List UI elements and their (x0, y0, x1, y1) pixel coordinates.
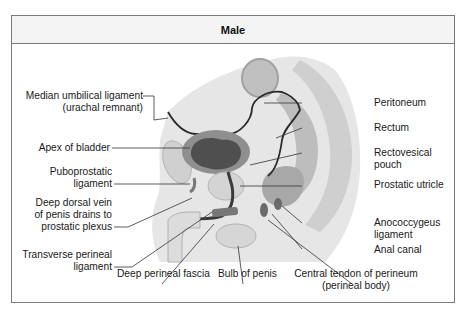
label-line: Apex of bladder (20, 142, 110, 154)
label-anococcygeus-ligament: Anococcygeus ligament (374, 217, 440, 241)
label-line: Transverse perineal (14, 249, 112, 261)
label-line: (perineal body) (286, 280, 426, 292)
label-median-umbilical-ligament: Median umbilical ligament (urachal remna… (20, 90, 143, 114)
label-central-tendon-of-perineum: Central tendon of perineum (perineal bod… (286, 268, 426, 292)
label-line: (urachal remnant) (20, 102, 143, 114)
prostate (208, 172, 244, 200)
label-line: Deep dorsal vein (14, 197, 112, 209)
label-deep-perineal-fascia: Deep perineal fascia (117, 268, 210, 280)
label-rectovesical-pouch: Rectovesical pouch (374, 147, 432, 171)
label-anal-canal: Anal canal (374, 244, 422, 256)
bulb-of-penis (216, 224, 256, 248)
anal-sphincter-2 (274, 198, 282, 210)
label-line: Puboprostatic (20, 166, 112, 178)
label-line: Rectovesical (374, 147, 432, 159)
label-deep-dorsal-vein: Deep dorsal vein of penis drains to pros… (14, 197, 112, 233)
label-prostatic-utricle: Prostatic utricle (374, 179, 444, 191)
label-peritoneum: Peritoneum (374, 97, 426, 109)
label-line: Anococcygeus (374, 217, 440, 229)
label-line: Anal canal (374, 244, 422, 256)
label-line: Bulb of penis (218, 268, 277, 280)
label-line: Central tendon of perineum (286, 268, 426, 280)
label-line: Median umbilical ligament (20, 90, 143, 102)
label-line: pouch (374, 159, 432, 171)
label-line: ligament (20, 178, 112, 190)
label-rectum: Rectum (374, 122, 409, 134)
label-transverse-perineal-ligament: Transverse perineal ligament (14, 249, 112, 273)
label-line: of penis drains to (14, 209, 112, 221)
label-line: Rectum (374, 122, 409, 134)
label-line: ligament (14, 261, 112, 273)
anal-sphincter-1 (260, 203, 268, 217)
label-line: Prostatic utricle (374, 179, 444, 191)
label-bulb-of-penis: Bulb of penis (218, 268, 277, 280)
label-line: Peritoneum (374, 97, 426, 109)
label-line: Deep perineal fascia (117, 268, 210, 280)
label-line: prostatic plexus (14, 221, 112, 233)
label-puboprostatic-ligament: Puboprostatic ligament (20, 166, 112, 190)
label-apex-of-bladder: Apex of bladder (20, 142, 110, 154)
label-line: ligament (374, 229, 440, 241)
